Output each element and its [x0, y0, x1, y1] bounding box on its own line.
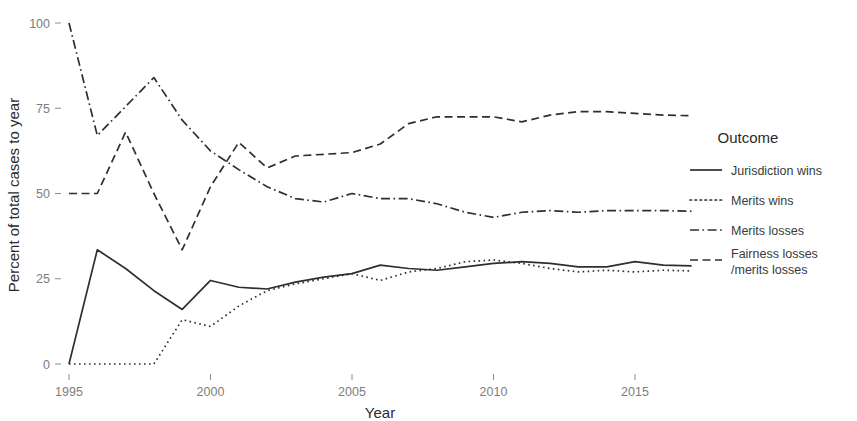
y-tick-label: 75 [36, 102, 50, 116]
line-chart-figure: Percent of total cases to year Year 0255… [0, 0, 857, 421]
x-axis-title: Year [365, 404, 395, 421]
legend-label: Merits wins [731, 194, 794, 208]
legend-label: Jurisdiction wins [731, 164, 822, 178]
legend-label-secondary: /merits losses [731, 263, 807, 277]
chart-background [0, 0, 857, 421]
x-tick-label: 2015 [621, 385, 649, 399]
y-tick-label: 0 [43, 358, 50, 372]
legend-label: Fairness losses [731, 247, 818, 261]
y-tick-label: 50 [36, 187, 50, 201]
x-tick-label: 1995 [55, 385, 83, 399]
y-tick-label: 100 [29, 17, 50, 31]
x-tick-label: 2010 [480, 385, 508, 399]
x-tick-label: 2005 [338, 385, 366, 399]
x-tick-label: 2000 [197, 385, 225, 399]
y-tick-label: 25 [36, 272, 50, 286]
y-axis-title: Percent of total cases to year [5, 98, 22, 292]
legend-title: Outcome [718, 129, 779, 146]
legend-label: Merits losses [731, 224, 804, 238]
